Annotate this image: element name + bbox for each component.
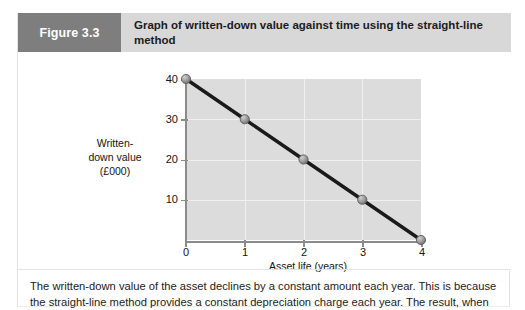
- figure-number-label: Figure 3.3: [39, 26, 99, 40]
- figure-panel: Figure 3.3 Graph of written-down value a…: [17, 13, 510, 307]
- x-tick-label-3: 3: [353, 246, 373, 258]
- x-tick-label-1: 1: [235, 246, 255, 258]
- gridline-horizontal-30: [186, 119, 421, 120]
- y-tick-label-30: 30: [154, 113, 178, 125]
- x-tick-label-0: 0: [176, 246, 196, 258]
- y-axis-title: Written- down value (£000): [54, 136, 176, 178]
- y-tick-label-10: 10: [154, 193, 178, 205]
- figure-header: Figure 3.3 Graph of written-down value a…: [18, 13, 511, 52]
- x-tick-label-4: 4: [412, 246, 432, 258]
- plot-area: [186, 79, 421, 240]
- y-axis-title-line-3: (£000): [54, 164, 176, 178]
- figure-number-badge: Figure 3.3: [18, 13, 121, 52]
- y-tick-20: [181, 160, 188, 162]
- caption-separator: [18, 269, 511, 270]
- chart-region: 40 30 20 10 0 1 2 3 4 Written- down valu…: [18, 52, 511, 270]
- x-tick-label-2: 2: [294, 246, 314, 258]
- figure-title: Graph of written-down value against time…: [134, 18, 494, 47]
- x-axis-title: Asset life (years): [223, 260, 393, 272]
- gridline-horizontal-10: [186, 200, 421, 201]
- gridline-horizontal-20: [186, 160, 421, 161]
- figure-caption: The written-down value of the asset decl…: [30, 279, 500, 310]
- y-tick-30: [181, 119, 188, 121]
- y-tick-10: [181, 200, 188, 202]
- y-axis-title-line-2: down value: [54, 150, 176, 164]
- y-tick-40: [181, 79, 188, 81]
- y-axis-title-line-1: Written-: [54, 136, 176, 150]
- y-tick-label-40: 40: [154, 73, 178, 85]
